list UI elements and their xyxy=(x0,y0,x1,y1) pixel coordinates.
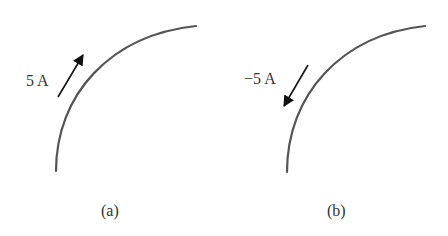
current-label-b: −5 A xyxy=(244,70,276,87)
wire-curve-a xyxy=(56,26,196,171)
wire-curve-b xyxy=(287,26,425,172)
figure-canvas: 5 A (a) −5 A (b) xyxy=(0,0,448,236)
panel-b: −5 A (b) xyxy=(244,26,425,220)
caption-a: (a) xyxy=(101,202,119,220)
caption-b: (b) xyxy=(327,202,346,220)
panel-a: 5 A (a) xyxy=(26,26,196,220)
current-label-a: 5 A xyxy=(26,72,49,89)
